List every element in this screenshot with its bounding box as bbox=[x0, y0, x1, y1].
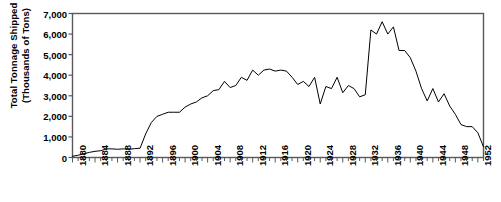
x-axis-tick-label: 1940 bbox=[414, 144, 425, 165]
x-axis-tick-label: 1936 bbox=[392, 144, 403, 165]
x-axis-tick-label: 1932 bbox=[369, 144, 380, 165]
chart-container: Total Tonnage Shipped (Thousands of Tons… bbox=[0, 0, 501, 202]
x-axis-tick-label: 1924 bbox=[324, 144, 335, 165]
x-axis-tick-label: 1916 bbox=[279, 144, 290, 165]
x-axis-tick-label: 1884 bbox=[99, 144, 110, 165]
x-axis-tick-label: 1892 bbox=[144, 144, 155, 165]
x-axis-tick-label: 1912 bbox=[257, 144, 268, 165]
x-axis-tick-label: 1900 bbox=[189, 144, 200, 165]
x-axis-tick-label: 1880 bbox=[77, 144, 88, 165]
x-axis-tick-label: 1888 bbox=[122, 144, 133, 165]
x-axis-tick-label: 1928 bbox=[347, 144, 358, 165]
x-axis-tick-label: 1896 bbox=[167, 144, 178, 165]
x-axis-tick-label: 1908 bbox=[234, 144, 245, 165]
x-axis-tick-labels: 1880188418881892189619001904190819121916… bbox=[0, 0, 501, 202]
x-axis-tick-label: 1952 bbox=[482, 144, 493, 165]
x-axis-tick-label: 1948 bbox=[459, 144, 470, 165]
x-axis-tick-label: 1904 bbox=[212, 144, 223, 165]
x-axis-tick-label: 1944 bbox=[437, 144, 448, 165]
x-axis-tick-label: 1920 bbox=[302, 144, 313, 165]
